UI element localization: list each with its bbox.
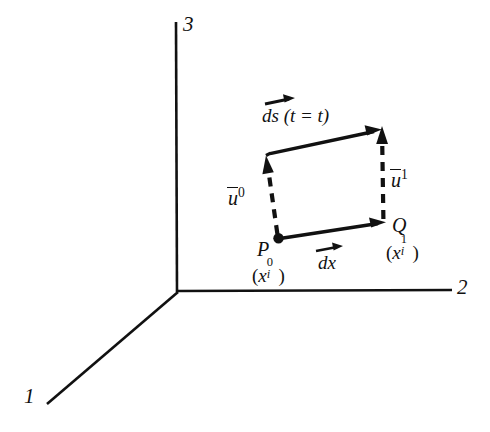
point-coord-p-base: x bbox=[258, 265, 266, 286]
axis-2-line bbox=[177, 290, 452, 291]
vector-label-dx: dx bbox=[318, 253, 336, 272]
point-p-marker bbox=[273, 233, 283, 243]
vector-label-u1: u1 bbox=[391, 168, 408, 190]
vector-label-dx-text: dx bbox=[318, 252, 336, 273]
axis-label-1: 1 bbox=[24, 386, 35, 407]
diagram-svg bbox=[0, 0, 490, 432]
vector-label-u0: u0 bbox=[228, 186, 245, 208]
edge-u1 bbox=[376, 126, 388, 219]
point-coord-p-indices: 0i bbox=[267, 263, 279, 282]
point-coord-q-sub: i bbox=[401, 245, 404, 258]
vector-label-u1-sup: 1 bbox=[401, 167, 408, 182]
ds-label-accent-icon bbox=[265, 94, 295, 104]
axis-1-line bbox=[47, 292, 178, 404]
edge-u0 bbox=[262, 156, 277, 235]
vector-label-u1-base: u bbox=[391, 169, 401, 190]
vector-label-ds: ds (t = t) bbox=[262, 106, 329, 125]
vector-label-u0-sup: 0 bbox=[238, 185, 245, 200]
edge-ds bbox=[270, 125, 382, 153]
point-coord-p-sub: i bbox=[267, 268, 270, 281]
edge-ds-arrowhead-right bbox=[365, 125, 382, 135]
point-coord-q: (x1i) bbox=[386, 240, 419, 262]
edge-u0-line bbox=[269, 172, 278, 234]
point-coord-q-indices: 1i bbox=[401, 240, 413, 259]
point-coord-q-close: ) bbox=[413, 242, 419, 263]
figure-canvas: 3 2 1 ds (t = t) dx u0 u1 P (x0i) Q (x1i… bbox=[0, 0, 490, 432]
edge-dx-line bbox=[280, 224, 378, 239]
point-coord-p: (x0i) bbox=[252, 263, 285, 285]
vector-label-ds-text: ds (t = t) bbox=[262, 105, 329, 126]
axis-label-3: 3 bbox=[183, 14, 194, 35]
edge-dx bbox=[280, 217, 386, 238]
axis-group bbox=[47, 22, 452, 404]
point-coord-q-base: x bbox=[392, 242, 400, 263]
axis-label-2: 2 bbox=[457, 277, 468, 298]
edge-ds-line bbox=[270, 132, 374, 154]
axis-3-line bbox=[176, 22, 177, 292]
vector-label-u0-base: u bbox=[228, 187, 238, 208]
edge-u0-arrowhead bbox=[262, 156, 273, 175]
point-coord-p-close: ) bbox=[279, 265, 285, 286]
edge-u1-line bbox=[382, 141, 383, 219]
dx-label-accent-icon bbox=[316, 242, 343, 251]
corner-top-left bbox=[266, 153, 271, 155]
